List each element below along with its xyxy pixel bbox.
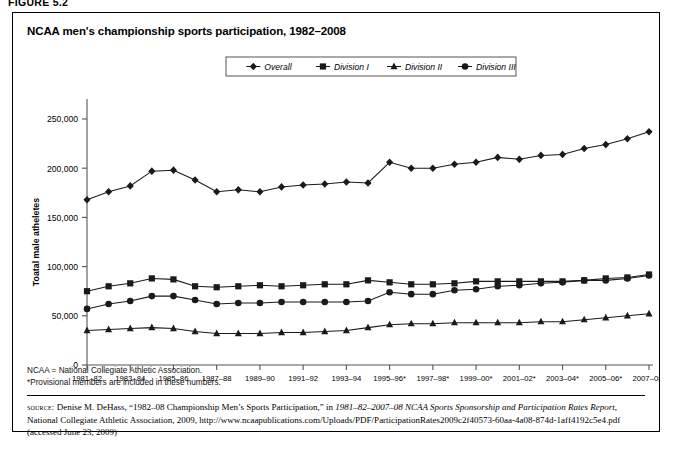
data-point-square xyxy=(192,283,198,289)
data-point-square xyxy=(473,278,479,284)
x-tick-label: 1997–98* xyxy=(416,374,449,383)
y-tick-label: 150,000 xyxy=(47,213,78,223)
data-point-circle xyxy=(105,301,112,308)
data-point-circle xyxy=(559,279,566,286)
figure-page: FIGURE 5.2 NCAA men's championship sport… xyxy=(0,0,674,449)
data-point-triangle xyxy=(494,319,501,326)
data-point-diamond xyxy=(429,164,436,172)
data-point-diamond xyxy=(472,158,479,166)
data-point-diamond xyxy=(516,156,523,164)
note-footnote: *Provisional members are included in the… xyxy=(27,377,221,389)
data-point-diamond xyxy=(581,145,588,153)
chart-notes: NCAA = National Collegiate Athletic Asso… xyxy=(27,365,221,388)
x-tick-label: 1995–96* xyxy=(373,374,406,383)
source-note: source: Denise M. DeHass, “1982–08 Champ… xyxy=(27,401,647,439)
data-point-triangle xyxy=(516,319,523,326)
data-point-diamond xyxy=(408,164,415,172)
data-point-diamond xyxy=(278,183,285,191)
data-point-square xyxy=(322,281,328,287)
note-abbreviation: NCAA = National Collegiate Athletic Asso… xyxy=(27,365,221,377)
data-point-circle xyxy=(235,300,242,307)
data-point-diamond xyxy=(321,180,328,188)
data-point-diamond xyxy=(559,151,566,159)
data-point-circle xyxy=(386,289,393,296)
data-point-triangle xyxy=(256,330,263,337)
x-tick-label: 2005–06* xyxy=(589,374,622,383)
data-point-circle xyxy=(321,299,328,306)
data-point-circle xyxy=(516,282,523,289)
data-point-diamond xyxy=(148,167,155,175)
source-label: source: xyxy=(27,403,54,412)
legend-label: Division I xyxy=(334,62,369,72)
data-point-circle xyxy=(473,286,480,293)
data-point-triangle xyxy=(321,328,328,335)
y-axis-title: Toatal male atheletes xyxy=(31,198,41,286)
data-point-triangle xyxy=(278,329,285,336)
y-tick-label: 200,000 xyxy=(47,164,78,174)
y-tick-label: 100,000 xyxy=(47,262,78,272)
data-point-diamond xyxy=(624,135,631,143)
data-point-diamond xyxy=(602,141,609,149)
data-point-circle xyxy=(581,277,588,284)
series-line-overall xyxy=(87,132,649,200)
figure-label: FIGURE 5.2 xyxy=(8,0,68,8)
data-point-triangle xyxy=(408,320,415,327)
data-point-triangle xyxy=(127,325,134,332)
figure-frame: NCAA men's championship sports participa… xyxy=(12,12,660,432)
x-tick-label: 1993–94 xyxy=(331,374,362,383)
data-point-triangle xyxy=(473,319,480,326)
data-point-circle xyxy=(646,272,653,279)
page-title: NCAA men's championship sports participa… xyxy=(27,25,346,37)
data-point-circle xyxy=(192,297,199,304)
data-point-triangle xyxy=(300,329,307,336)
data-point-circle xyxy=(170,293,177,300)
data-point-square xyxy=(343,281,349,287)
data-point-diamond xyxy=(170,166,177,174)
x-tick-label: 2007–08* xyxy=(633,374,659,383)
legend-label: Division III xyxy=(476,62,516,72)
x-tick-label: 2001–02* xyxy=(503,374,536,383)
x-tick-label: 2003–04* xyxy=(546,374,579,383)
data-point-square xyxy=(278,283,284,289)
data-point-circle xyxy=(149,293,156,300)
data-point-triangle xyxy=(105,326,112,333)
data-point-square xyxy=(387,279,393,285)
data-point-circle xyxy=(300,299,307,306)
data-point-square xyxy=(170,276,176,282)
data-point-circle xyxy=(365,298,372,305)
data-point-triangle xyxy=(386,321,393,328)
data-point-circle xyxy=(494,283,501,290)
data-point-square xyxy=(214,284,220,290)
data-point-circle xyxy=(213,301,220,308)
data-point-circle xyxy=(408,291,415,298)
data-point-square xyxy=(257,282,263,288)
data-point-triangle xyxy=(537,318,544,325)
data-point-diamond xyxy=(451,160,458,168)
data-point-circle xyxy=(451,287,458,294)
data-point-square xyxy=(408,281,414,287)
data-point-triangle xyxy=(170,325,177,332)
data-point-diamond xyxy=(645,128,652,136)
data-point-square xyxy=(430,281,436,287)
data-point-triangle xyxy=(235,330,242,337)
data-point-circle xyxy=(538,280,545,287)
data-point-diamond xyxy=(494,154,501,162)
data-point-circle xyxy=(257,300,264,307)
data-point-triangle xyxy=(429,320,436,327)
data-point-triangle xyxy=(84,327,91,334)
data-point-triangle xyxy=(646,310,653,317)
data-point-diamond xyxy=(256,188,263,196)
legend-marker-square xyxy=(320,63,326,69)
data-point-triangle xyxy=(148,324,155,331)
participation-line-chart: 050,000100,000150,000200,000250,000Toata… xyxy=(13,49,659,389)
data-point-circle xyxy=(624,275,631,282)
legend-label: Overall xyxy=(264,62,292,72)
data-point-square xyxy=(235,283,241,289)
data-point-triangle xyxy=(451,319,458,326)
data-point-diamond xyxy=(235,186,242,194)
data-point-circle xyxy=(278,299,285,306)
data-point-circle xyxy=(343,299,350,306)
divider xyxy=(27,395,645,396)
x-tick-label: 1989–90 xyxy=(245,374,275,383)
data-point-diamond xyxy=(127,182,134,190)
